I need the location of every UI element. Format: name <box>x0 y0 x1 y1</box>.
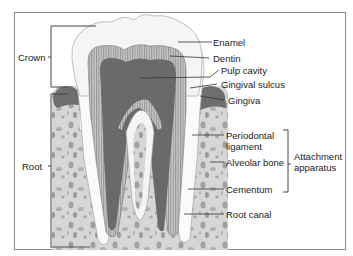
label-alveolar-bone: Alveolar bone <box>226 157 284 168</box>
tooth-illustration <box>0 0 353 256</box>
label-root-canal: Root canal <box>226 209 271 220</box>
label-root: Root <box>22 161 42 172</box>
label-pulp-cavity: Pulp cavity <box>221 65 267 76</box>
label-attachment-apparatus-line2: apparatus <box>294 162 336 173</box>
label-periodontal-ligament-line1: Periodontal <box>226 130 274 141</box>
label-enamel: Enamel <box>213 37 245 48</box>
label-periodontal-ligament-line2: ligament <box>226 141 262 152</box>
label-attachment-apparatus-line1: Attachment <box>294 151 342 162</box>
label-gingiva: Gingiva <box>228 95 260 106</box>
label-gingival-sulcus: Gingival sulcus <box>221 79 285 90</box>
label-cementum: Cementum <box>226 184 272 195</box>
label-crown: Crown <box>18 52 45 63</box>
label-dentin: Dentin <box>213 53 240 64</box>
